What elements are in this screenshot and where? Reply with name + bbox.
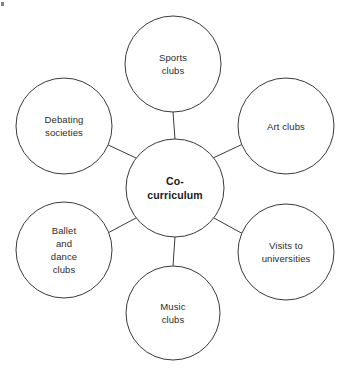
node-circle-ballet-and-dance-clubs[interactable]	[16, 202, 112, 298]
center-node-circle[interactable]	[126, 139, 224, 237]
connector-center-sports-clubs	[173, 112, 175, 139]
node-circle-art-clubs[interactable]	[238, 78, 334, 174]
diagram-canvas	[0, 0, 346, 370]
circle-layer	[16, 16, 334, 360]
connector-center-visits-to-universities	[214, 218, 245, 235]
connector-center-music-clubs	[173, 237, 175, 266]
connector-center-debating-societies	[104, 143, 136, 158]
connector-center-art-clubs	[213, 143, 245, 158]
node-circle-sports-clubs[interactable]	[125, 16, 221, 112]
node-circle-visits-to-universities[interactable]	[238, 204, 334, 300]
node-circle-music-clubs[interactable]	[126, 266, 220, 360]
node-circle-debating-societies[interactable]	[16, 78, 112, 174]
co-curriculum-diagram: Co- curriculum Sports clubsArt clubsVisi…	[0, 0, 346, 370]
corner-artifact	[1, 2, 4, 6]
